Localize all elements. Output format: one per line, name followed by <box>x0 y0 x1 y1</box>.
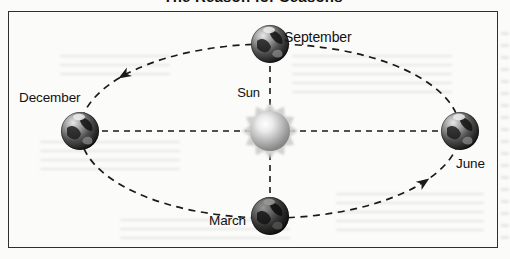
page-bleed-artifact <box>501 28 509 242</box>
orbit-direction-arrow-upper-left-icon <box>116 68 132 83</box>
diagram-title: The Reason for Seasons <box>0 0 506 5</box>
earth-march-icon <box>251 197 289 235</box>
orbit-diagram <box>9 12 499 249</box>
earth-december-icon <box>61 112 99 150</box>
label-september: September <box>284 29 352 45</box>
label-december: December <box>19 90 80 105</box>
scanned-page: The Reason for Seasons <box>0 0 510 259</box>
orbit-direction-arrow-lower-right-icon <box>416 174 432 190</box>
label-march: March <box>209 213 246 228</box>
label-sun: Sun <box>226 85 260 100</box>
earth-june-icon <box>441 112 479 150</box>
sun-icon <box>242 103 298 159</box>
diagram-frame <box>8 11 498 248</box>
label-june: June <box>456 156 485 171</box>
